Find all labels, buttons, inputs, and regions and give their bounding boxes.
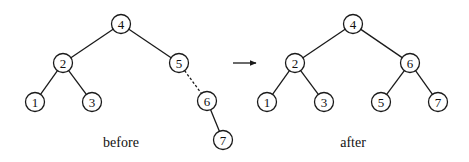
node-3: 3 (83, 93, 102, 112)
edge-6-7 (211, 110, 220, 131)
node-7: 7 (429, 93, 448, 112)
edge-2-3 (301, 71, 319, 95)
nodes-after: 4261357 (258, 15, 448, 112)
edge-5-6 (185, 71, 202, 94)
node-1: 1 (258, 93, 277, 112)
node-label: 3 (89, 95, 96, 110)
node-label: 6 (204, 94, 211, 109)
node-label: 2 (292, 56, 299, 71)
node-label: 1 (32, 95, 39, 110)
node-label: 7 (435, 95, 442, 110)
edge-2-1 (273, 71, 290, 95)
node-3: 3 (315, 93, 334, 112)
node-label: 2 (60, 56, 67, 71)
node-4: 4 (344, 15, 363, 34)
node-label: 7 (220, 133, 227, 148)
node-4: 4 (112, 15, 131, 34)
node-label: 4 (118, 17, 125, 32)
node-label: 5 (176, 56, 183, 71)
node-5: 5 (170, 54, 189, 73)
node-5: 5 (372, 93, 391, 112)
node-6: 6 (401, 54, 420, 73)
edge-6-5 (387, 71, 405, 95)
node-label: 5 (378, 95, 385, 110)
node-7: 7 (214, 131, 233, 150)
nodes-before: 4251367 (26, 15, 233, 150)
node-label: 4 (350, 17, 357, 32)
edge-6-7 (416, 71, 433, 95)
node-label: 1 (264, 95, 271, 110)
caption-before: before (103, 135, 139, 150)
edge-4-5 (129, 29, 171, 57)
node-2: 2 (286, 54, 305, 73)
node-1: 1 (26, 93, 45, 112)
tree-rotation-diagram: 4251367 before 4261357 after (0, 0, 469, 162)
node-2: 2 (54, 54, 73, 73)
edges-before (41, 29, 220, 131)
edge-2-3 (69, 71, 87, 95)
edge-4-6 (361, 29, 402, 57)
tree-before: 4251367 before (26, 15, 233, 151)
edge-2-1 (41, 71, 58, 95)
caption-after: after (340, 135, 366, 150)
edge-4-2 (71, 29, 113, 57)
node-label: 6 (407, 56, 414, 71)
tree-after: 4261357 after (258, 15, 448, 151)
node-label: 3 (321, 95, 328, 110)
node-6: 6 (198, 92, 217, 111)
edge-4-2 (303, 29, 345, 57)
